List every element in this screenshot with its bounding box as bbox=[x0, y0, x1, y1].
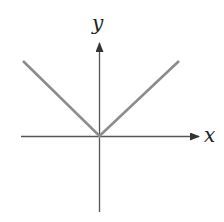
abs-value-graph: y x bbox=[0, 0, 224, 222]
y-axis-label: y bbox=[91, 11, 104, 35]
x-axis-label: x bbox=[204, 123, 215, 147]
abs-value-curve bbox=[23, 61, 179, 136]
